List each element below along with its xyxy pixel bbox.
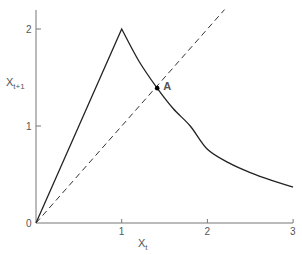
chart: 12312 Xt+1 Xt 0 A [0,0,302,255]
x-axis-label: Xt [138,237,148,252]
origin-label: 0 [26,218,32,229]
x-tick-label: 2 [204,226,210,237]
x-tick-label: 3 [290,226,296,237]
x-tick-label: 1 [119,226,125,237]
y-tick-label: 1 [26,121,32,132]
fixed-point-a-label: A [163,80,171,92]
y-tick-label: 2 [26,24,32,35]
map-curve [36,29,293,223]
identity-line [36,10,225,223]
y-axis-label: Xt+1 [6,76,25,91]
fixed-point-a-marker [155,86,160,91]
axis-ticks: 12312 [26,24,296,237]
